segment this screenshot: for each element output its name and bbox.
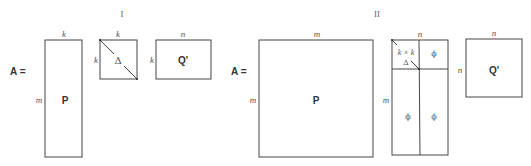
lhs-label: A = xyxy=(231,66,247,77)
dim-label: k xyxy=(116,29,121,39)
block-size-label: k × k xyxy=(398,48,415,57)
dim-label: m xyxy=(250,95,257,105)
dim-label: k xyxy=(62,29,67,39)
dim-label: m xyxy=(383,95,390,105)
matrix-name: Q' xyxy=(178,55,188,66)
panel-label: I xyxy=(121,9,124,19)
matrix-name: Q' xyxy=(489,65,499,76)
matrix-name: Δ xyxy=(114,55,121,66)
svd-diagram: I A = k m P k k Δ n k Q' II A = m m P n … xyxy=(0,0,531,166)
panel-label: II xyxy=(374,9,380,19)
matrix-name: P xyxy=(62,95,69,106)
dim-label: m xyxy=(314,29,321,39)
panel-ii: II A = m m P n m k × k Δ ϕ ϕ ϕ n n Q' xyxy=(231,9,522,157)
dim-label: n xyxy=(181,29,186,39)
dim-label: n xyxy=(492,28,497,38)
dim-label: k xyxy=(150,55,155,65)
zero-block-label: ϕ xyxy=(405,112,411,121)
zero-block-label: ϕ xyxy=(431,112,437,121)
lhs-label: A = xyxy=(10,66,26,77)
dim-label: m xyxy=(36,95,43,105)
matrix-name: P xyxy=(313,95,320,106)
matrix-name: Δ xyxy=(403,58,409,67)
zero-block-label: ϕ xyxy=(431,49,437,58)
dim-label: n xyxy=(418,29,423,39)
dim-label: n xyxy=(458,65,463,75)
dim-label: k xyxy=(94,55,99,65)
panel-i: I A = k m P k k Δ n k Q' xyxy=(10,9,211,157)
